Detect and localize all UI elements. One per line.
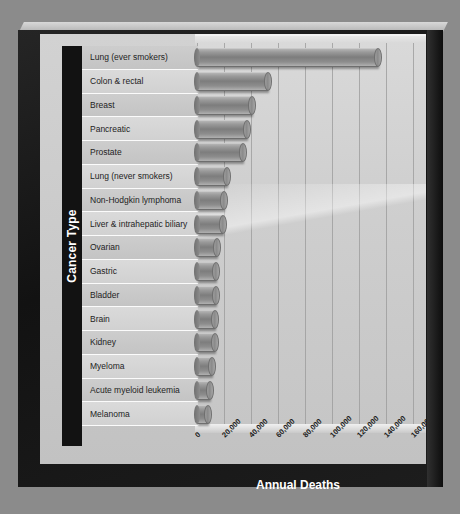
x-axis-tick-labels: 020,00040,00060,00080,000100,000120,0001…: [197, 433, 426, 464]
plot-surface: Cancer Type Lung (ever smokers)Colon & r…: [40, 34, 426, 464]
category-label-row: Bladder: [82, 284, 198, 308]
bar-cylinder[interactable]: [197, 286, 216, 305]
bar-slot: [197, 284, 426, 308]
chart-frame: Cancer Type Lung (ever smokers)Colon & r…: [18, 22, 442, 487]
x-axis-title: Annual Deaths: [198, 474, 398, 496]
category-label-text: Lung (never smokers): [90, 171, 173, 181]
bar-slot: [197, 260, 426, 284]
bar-cylinder[interactable]: [197, 381, 210, 400]
bar-slot: [197, 307, 426, 331]
category-label-text: Bladder: [90, 290, 119, 300]
category-label-row: Colon & rectal: [82, 70, 198, 94]
category-label-row: Myeloma: [82, 355, 198, 379]
category-label-row: Lung (ever smokers): [82, 46, 198, 70]
category-label-row: Prostate: [82, 141, 198, 165]
bar-slot: [197, 189, 426, 213]
category-label-row: Melanoma: [82, 402, 198, 426]
category-label-row: Gastric: [82, 260, 198, 284]
bar-cylinder[interactable]: [197, 215, 223, 234]
category-label-text: Breast: [90, 100, 115, 110]
bar-slot: [197, 355, 426, 379]
category-label-row: Brain: [82, 307, 198, 331]
category-label-text: Lung (ever smokers): [90, 52, 168, 62]
category-label-text: Gastric: [90, 266, 117, 276]
bar-slot: [197, 236, 426, 260]
bar-cylinder[interactable]: [197, 48, 378, 67]
category-label-text: Ovarian: [90, 242, 120, 252]
bar-slot: [197, 46, 426, 70]
bar-slot: [197, 70, 426, 94]
category-label-row: Liver & intrahepatic biliary: [82, 212, 198, 236]
category-label-text: Prostate: [90, 147, 122, 157]
category-label-row: Breast: [82, 94, 198, 118]
category-label-column: Lung (ever smokers)Colon & rectalBreastP…: [82, 46, 198, 426]
bar-slot: [197, 212, 426, 236]
bar-cylinder[interactable]: [197, 120, 247, 139]
category-label-row: Lung (never smokers): [82, 165, 198, 189]
bar-slot: [197, 379, 426, 403]
bar-cylinder[interactable]: [197, 143, 243, 162]
category-label-text: Kidney: [90, 337, 116, 347]
bar-slot: [197, 94, 426, 118]
bar-cylinder[interactable]: [197, 238, 217, 257]
bar-slot: [197, 331, 426, 355]
bar-slot: [197, 141, 426, 165]
frame-right-bevel: [427, 30, 443, 487]
y-axis-title-text: Cancer Type: [65, 209, 79, 282]
category-label-text: Liver & intrahepatic biliary: [90, 219, 187, 229]
bar-cylinder[interactable]: [197, 191, 224, 210]
bar-slot: [197, 165, 426, 189]
category-label-text: Non-Hodgkin lymphoma: [90, 195, 181, 205]
category-label-text: Myeloma: [90, 361, 124, 371]
category-label-row: Non-Hodgkin lymphoma: [82, 189, 198, 213]
y-axis-title: Cancer Type: [62, 46, 82, 446]
category-label-text: Colon & rectal: [90, 76, 143, 86]
bar-cylinder[interactable]: [197, 357, 212, 376]
bar-slot: [197, 117, 426, 141]
bar-cylinder[interactable]: [197, 167, 227, 186]
bar-cylinder[interactable]: [197, 310, 215, 329]
category-label-text: Acute myeloid leukemia: [90, 385, 180, 395]
category-label-row: Acute myeloid leukemia: [82, 379, 198, 403]
category-label-text: Melanoma: [90, 409, 130, 419]
category-label-row: Kidney: [82, 331, 198, 355]
category-label-text: Pancreatic: [90, 124, 130, 134]
bar-cylinder[interactable]: [197, 96, 252, 115]
category-label-row: Pancreatic: [82, 117, 198, 141]
x-axis-title-text: Annual Deaths: [256, 478, 340, 492]
bar-cylinder[interactable]: [197, 333, 215, 352]
bar-cylinder[interactable]: [197, 72, 268, 91]
bars-layer: [197, 46, 426, 426]
bar-cylinder[interactable]: [197, 405, 208, 424]
category-label-row: Ovarian: [82, 236, 198, 260]
bar-cylinder[interactable]: [197, 262, 216, 281]
category-label-text: Brain: [90, 314, 110, 324]
